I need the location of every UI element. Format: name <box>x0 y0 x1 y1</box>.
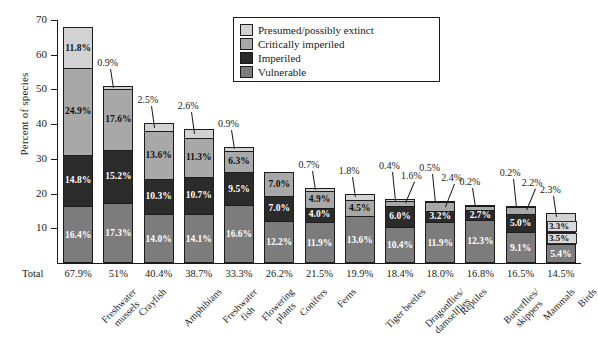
segment-vuln[interactable]: 9.1% <box>507 233 535 263</box>
segment-imperiled[interactable]: 15.2% <box>104 151 132 204</box>
callout-label: 0.2% <box>500 168 521 178</box>
legend-label: Imperiled <box>258 53 301 64</box>
x-axis-category-label: Floweringplants <box>259 286 304 331</box>
segment-vuln[interactable]: 13.6% <box>346 217 374 263</box>
y-axis-tick-label: 20 <box>20 188 47 199</box>
x-axis-category-label: Birds <box>575 286 598 309</box>
segment-vuln[interactable]: 11.9% <box>426 223 454 263</box>
callout-label: 1.8% <box>339 166 360 176</box>
segment-imperiled[interactable]: 5.0% <box>507 215 535 232</box>
segment-imperiled[interactable]: 7.0% <box>265 197 293 221</box>
segment-imperiled[interactable]: 14.8% <box>64 156 92 207</box>
segment-value-label: 14.1% <box>186 235 212 245</box>
segment-crit[interactable]: 4.9% <box>306 192 334 209</box>
legend-label: Critically imperiled <box>258 39 344 50</box>
segment-imperiled[interactable]: 6.0% <box>386 207 414 228</box>
segment-vuln[interactable]: 10.4% <box>386 228 414 263</box>
x-axis-category-label: Amphibians <box>181 286 223 328</box>
bar-10[interactable]: 2.7%12.3% <box>465 205 495 263</box>
bar-0[interactable]: 11.8%24.9%14.8%16.4% <box>63 27 93 263</box>
segment-vuln[interactable]: 14.0% <box>145 215 173 263</box>
segment-imperiled[interactable]: 9.5% <box>225 173 253 206</box>
total-row-label: Total <box>22 268 43 279</box>
segment-imperiled[interactable]: 10.3% <box>145 180 173 216</box>
legend-item-presumed-extinct: Presumed/possibly extinct <box>240 23 433 37</box>
bar-1[interactable]: 17.6%15.2%17.3% <box>103 86 133 263</box>
segment-vuln[interactable]: 12.3% <box>466 221 494 263</box>
segment-crit[interactable]: 4.5% <box>346 201 374 217</box>
segment-value-label: 13.6% <box>347 236 373 246</box>
y-axis-tick <box>51 159 58 160</box>
callout-label: 0.2% <box>459 177 480 187</box>
x-axis-line <box>57 263 581 264</box>
legend-item-vulnerable: Vulnerable <box>240 65 433 79</box>
segment-imperiled[interactable]: 4.0% <box>306 209 334 223</box>
callout-label: 2.5% <box>138 95 159 105</box>
segment-imperiled[interactable]: 10.7% <box>185 178 213 215</box>
segment-value-label-boxed: 3.3% <box>547 221 577 232</box>
x-axis-category-label: Freshwaterfish <box>220 286 267 333</box>
bar-8[interactable]: 6.0%10.4% <box>385 199 415 263</box>
legend-item-critically-imperiled: Critically imperiled <box>240 37 433 51</box>
segment-crit[interactable]: 7.0% <box>265 173 293 197</box>
segment-crit[interactable]: 6.3% <box>225 152 253 174</box>
segment-vuln[interactable]: 17.3% <box>104 204 132 263</box>
segment-value-label: 11.8% <box>65 44 91 54</box>
x-axis-category-label: Ferns <box>334 286 358 310</box>
segment-value-label: 12.2% <box>266 238 292 248</box>
y-axis-tick-label: 30 <box>20 153 47 164</box>
segment-vuln[interactable]: 16.4% <box>64 207 92 263</box>
callout-leader-line <box>392 172 396 201</box>
y-axis-tick <box>51 89 58 90</box>
bar-7[interactable]: 4.5%13.6% <box>345 194 375 263</box>
segment-value-label: 9.5% <box>228 185 249 195</box>
bar-6[interactable]: 4.9%4.0%11.9% <box>305 188 335 263</box>
segment-value-label: 11.9% <box>307 239 333 249</box>
segment-value-label: 4.5% <box>349 204 370 214</box>
segment-imperiled[interactable]: 2.7% <box>466 211 494 220</box>
segment-vuln[interactable]: 5.4% <box>547 245 575 263</box>
y-axis-tick-label: 50 <box>20 83 47 94</box>
segment-crit[interactable] <box>426 203 454 211</box>
segment-crit[interactable]: 17.6% <box>104 90 132 151</box>
segment-extinct[interactable]: 11.8% <box>64 28 92 69</box>
total-value: 51% <box>98 268 138 279</box>
segment-value-label: 10.3% <box>146 192 172 202</box>
callout-label: 2.3% <box>540 185 561 195</box>
x-axis-category-label: Tiger beetles <box>383 286 427 330</box>
segment-vuln[interactable]: 12.2% <box>265 222 293 263</box>
segment-value-label: 6.3% <box>228 157 249 167</box>
segment-value-label: 9.1% <box>510 244 531 254</box>
segment-crit[interactable]: 13.6% <box>145 132 173 179</box>
segment-value-label: 16.6% <box>226 230 252 240</box>
bar-11[interactable]: 5.0%9.1% <box>506 206 536 263</box>
segment-value-label: 11.9% <box>427 239 453 249</box>
segment-vuln[interactable]: 11.9% <box>306 223 334 263</box>
segment-vuln[interactable]: 14.1% <box>185 215 213 263</box>
x-axis-category-label: Butterflies/skippers <box>502 286 549 333</box>
segment-value-label: 24.9% <box>65 107 91 117</box>
segment-crit[interactable]: 24.9% <box>64 69 92 155</box>
segment-value-label: 10.7% <box>186 191 212 201</box>
legend-label: Presumed/possibly extinct <box>258 25 374 36</box>
bar-3[interactable]: 11.3%10.7%14.1% <box>184 129 214 263</box>
segment-imperiled[interactable]: 3.2% <box>426 212 454 223</box>
segment-crit[interactable]: 11.3% <box>185 139 213 178</box>
total-value: 33.3% <box>219 268 259 279</box>
bar-4[interactable]: 6.3%9.5%16.6% <box>224 147 254 263</box>
segment-extinct[interactable] <box>185 130 213 139</box>
segment-vuln[interactable]: 16.6% <box>225 206 253 263</box>
segment-value-label: 16.4% <box>65 231 91 241</box>
bar-5[interactable]: 7.0%7.0%12.2% <box>264 172 294 263</box>
callout-label: 0.4% <box>379 161 400 171</box>
bar-2[interactable]: 13.6%10.3%14.0% <box>144 123 174 263</box>
segment-value-label: 4.0% <box>309 210 330 220</box>
total-value: 38.7% <box>179 268 219 279</box>
segment-value-label: 2.7% <box>470 211 491 220</box>
bar-9[interactable]: 3.2%11.9% <box>425 201 455 263</box>
segment-value-label: 4.9% <box>309 195 330 205</box>
segment-extinct[interactable] <box>145 124 173 133</box>
segment-value-label: 7.0% <box>269 204 290 214</box>
segment-crit[interactable] <box>507 208 535 216</box>
